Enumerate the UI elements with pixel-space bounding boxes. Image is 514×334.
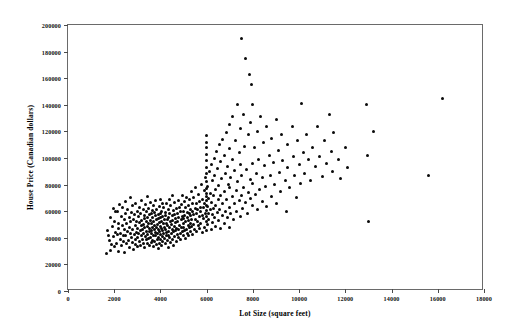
data-point — [206, 185, 209, 188]
data-point — [142, 242, 145, 245]
data-point — [201, 231, 204, 234]
data-point — [167, 208, 170, 211]
data-point — [228, 206, 231, 209]
x-tick-label: 8000 — [246, 295, 259, 302]
x-tick-mark — [392, 289, 393, 293]
data-point — [160, 244, 163, 247]
x-tick-label: 10000 — [291, 295, 307, 302]
data-point — [233, 169, 236, 172]
data-point — [275, 202, 278, 205]
data-point — [175, 240, 178, 243]
data-point — [242, 113, 245, 116]
data-point — [228, 123, 231, 126]
data-point — [121, 206, 124, 209]
data-point — [284, 179, 287, 182]
data-point — [234, 139, 237, 142]
data-point — [180, 203, 183, 206]
data-point — [113, 220, 116, 223]
x-tick-label: 2000 — [108, 295, 121, 302]
data-point — [253, 146, 256, 149]
data-point — [238, 199, 241, 202]
data-point — [229, 176, 232, 179]
data-point — [240, 174, 243, 177]
data-point — [205, 159, 208, 162]
data-point — [221, 138, 224, 141]
data-point — [248, 73, 251, 76]
y-tick-mark — [64, 52, 68, 53]
y-tick-label: 200000 — [42, 22, 61, 29]
data-point — [109, 216, 112, 219]
data-point — [298, 163, 301, 166]
data-point — [120, 244, 123, 247]
data-point — [217, 219, 220, 222]
data-point — [191, 233, 194, 236]
y-tick-mark — [64, 131, 68, 132]
data-point — [201, 198, 204, 201]
data-point — [228, 226, 231, 229]
x-axis-title: Lot Size (square feet) — [67, 309, 483, 318]
data-point — [116, 210, 119, 213]
data-point — [143, 246, 146, 249]
data-point — [265, 125, 268, 128]
data-point — [250, 83, 253, 86]
data-point — [346, 166, 349, 169]
data-point — [157, 247, 160, 250]
y-tick-mark — [64, 238, 68, 239]
data-point — [236, 103, 239, 106]
data-point — [125, 242, 128, 245]
data-point — [111, 225, 114, 228]
data-point — [216, 167, 219, 170]
data-point — [117, 227, 120, 230]
data-point — [134, 238, 137, 241]
data-point — [330, 150, 333, 153]
data-point — [225, 131, 228, 134]
data-point — [181, 194, 184, 197]
data-point — [171, 194, 174, 197]
data-point — [197, 193, 200, 196]
data-point — [205, 134, 208, 137]
x-tick-mark — [160, 289, 161, 293]
data-point — [243, 145, 246, 148]
data-point — [205, 153, 208, 156]
data-point — [328, 113, 331, 116]
data-point — [241, 207, 244, 210]
data-point — [220, 177, 223, 180]
data-point — [295, 196, 298, 199]
data-point — [251, 103, 254, 106]
data-point — [228, 186, 231, 189]
data-point — [205, 172, 208, 175]
data-point — [223, 222, 226, 225]
data-point — [210, 228, 213, 231]
data-point — [339, 177, 342, 180]
data-point — [296, 139, 299, 142]
data-point — [112, 235, 115, 238]
data-point — [141, 238, 144, 241]
data-point — [247, 133, 250, 136]
data-point — [239, 163, 242, 166]
data-point — [214, 204, 217, 207]
y-tick-mark — [64, 264, 68, 265]
data-point — [223, 154, 226, 157]
data-point — [221, 214, 224, 217]
data-point — [217, 198, 220, 201]
data-point — [192, 196, 195, 199]
data-point — [275, 118, 278, 121]
x-tick-mark — [207, 289, 208, 293]
data-point — [245, 168, 248, 171]
data-point — [113, 245, 116, 248]
y-tick-mark — [64, 78, 68, 79]
data-point — [293, 174, 296, 177]
data-point — [366, 154, 369, 157]
data-point — [244, 201, 247, 204]
data-point — [129, 232, 132, 235]
data-point — [129, 220, 132, 223]
data-point — [212, 207, 215, 210]
y-tick-mark — [64, 105, 68, 106]
data-point — [277, 149, 280, 152]
y-tick-label: 180000 — [42, 48, 61, 55]
data-point — [182, 222, 185, 225]
data-point — [131, 228, 134, 231]
data-point — [303, 172, 306, 175]
x-tick-label: 12000 — [337, 295, 353, 302]
data-point — [337, 158, 340, 161]
